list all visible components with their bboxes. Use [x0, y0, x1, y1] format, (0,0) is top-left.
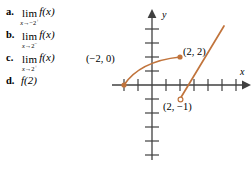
y-axis-label: y [162, 9, 166, 20]
limit-subscript-b: x→2− [22, 41, 37, 50]
x-axis-label: x [240, 66, 244, 77]
x-axis-arrowhead [242, 81, 251, 90]
problem-label-b: b. [6, 30, 21, 41]
figure-root: a.limx→−2+f(x) b.limx→2−f(x) c.limx→2+f(… [0, 0, 251, 170]
y-axis-arrowhead [148, 9, 157, 18]
limit-side-b: − [34, 41, 37, 46]
limit-subscript-c: x→2+ [22, 64, 37, 73]
problem-label-a: a. [6, 7, 21, 18]
label-point-2-neg1: (2, −1) [163, 101, 192, 112]
curve-right-branch [180, 26, 224, 99]
function-expr-c: f(x) [39, 51, 54, 63]
limit-subscript-a: x→−2+ [20, 18, 39, 27]
problem-item-c: c.limx→2+f(x) [6, 52, 55, 65]
label-point-2-2: (2, 2) [183, 46, 206, 57]
label-point-neg2-0: (−2, 0) [86, 53, 115, 64]
function-expr-d: f(2) [21, 74, 37, 86]
problem-item-d: d.f(2) [6, 75, 37, 87]
problem-item-a: a.limx→−2+f(x) [6, 6, 55, 19]
limit-operator-c: limx→2+ [22, 54, 37, 65]
limit-problem-list: a.limx→−2+f(x) b.limx→2−f(x) c.limx→2+f(… [0, 0, 112, 170]
limit-side-a: + [36, 18, 39, 23]
closed-point-neg2-0 [121, 82, 126, 87]
problem-item-b: b.limx→2−f(x) [6, 29, 55, 42]
coordinate-plane-svg [112, 0, 251, 170]
closed-point-2-2 [177, 54, 182, 59]
graph-panel: y x (−2, 0) (2, 2) (2, −1) [112, 0, 251, 170]
problem-label-d: d. [6, 76, 21, 87]
function-expr-a: f(x) [39, 5, 54, 17]
function-expr-b: f(x) [39, 28, 54, 40]
limit-operator-a: limx→−2+ [22, 8, 37, 19]
problem-label-c: c. [6, 53, 21, 64]
limit-operator-b: limx→2− [22, 31, 37, 42]
limit-side-c: + [34, 64, 37, 69]
